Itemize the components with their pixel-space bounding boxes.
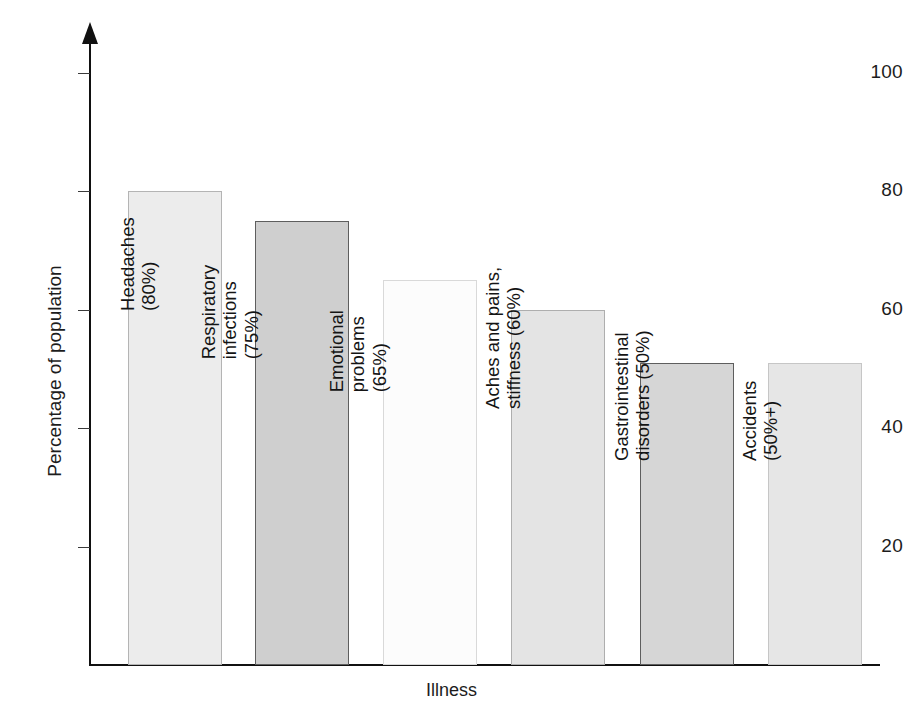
y-tick-label: 60 xyxy=(845,298,903,320)
bar-label: Gastrointestinal disorders (50%) xyxy=(611,330,654,461)
bar[interactable] xyxy=(383,280,477,665)
y-axis-title: Percentage of population xyxy=(44,211,66,531)
y-tick-mark xyxy=(78,73,90,74)
bar-label: Emotional problems (65%) xyxy=(326,310,390,392)
y-tick-label: 80 xyxy=(845,179,903,201)
bar[interactable] xyxy=(511,310,605,665)
y-tick-mark xyxy=(78,547,90,548)
bar[interactable] xyxy=(768,363,862,665)
bar[interactable] xyxy=(255,221,349,665)
y-tick-mark xyxy=(78,191,90,192)
y-tick-mark xyxy=(78,310,90,311)
bar-label: Aches and pains, stiffness (60%) xyxy=(482,267,525,409)
y-tick-label: 100 xyxy=(845,61,903,83)
bar[interactable] xyxy=(640,363,734,665)
y-tick-mark xyxy=(78,428,90,429)
bar-label: Headaches (80%) xyxy=(117,217,160,311)
y-axis-line xyxy=(89,40,91,666)
x-axis-title: Illness xyxy=(0,680,903,701)
chart-plot-area: 20406080100 Headaches (80%)Respiratory i… xyxy=(0,0,903,725)
bar-label: Respiratory infections (75%) xyxy=(198,265,262,360)
figure-container: 20406080100 Headaches (80%)Respiratory i… xyxy=(0,0,903,725)
bar-label: Accidents (50%+) xyxy=(739,381,782,461)
